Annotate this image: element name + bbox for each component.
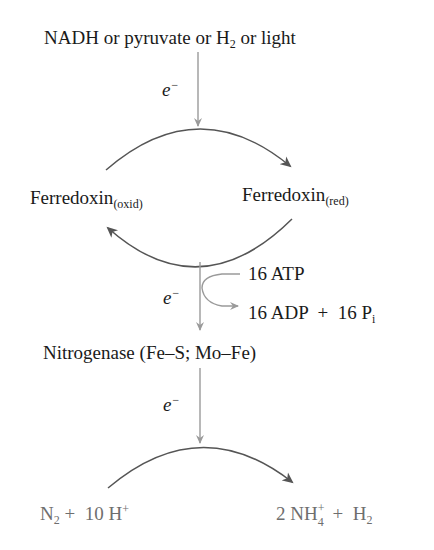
reduction-arc bbox=[106, 129, 290, 170]
products-label: 2 NH+4 + H2 bbox=[276, 504, 372, 523]
adp-pi-output-label: 16 ADP + 16 Pi bbox=[248, 303, 375, 322]
atp-hydrolysis-arrow bbox=[202, 274, 240, 306]
reaction-arc bbox=[108, 447, 292, 488]
ferredoxin-oxidized-label: Ferredoxin(oxid) bbox=[30, 188, 143, 207]
electron-label-1: e− bbox=[162, 80, 179, 99]
oxidation-arc bbox=[108, 219, 292, 267]
nitrogenase-label: Nitrogenase (Fe–S; Mo–Fe) bbox=[43, 343, 256, 362]
atp-input-label: 16 ATP bbox=[248, 264, 305, 283]
electron-label-2: e− bbox=[163, 288, 180, 307]
electron-source-label: NADH or pyruvate or H2 or light bbox=[44, 28, 296, 47]
electron-label-3: e− bbox=[163, 395, 180, 414]
ferredoxin-reduced-label: Ferredoxin(red) bbox=[242, 185, 349, 204]
diagram-arrows bbox=[0, 0, 434, 550]
reactants-label: N2 + 10 H+ bbox=[40, 504, 129, 523]
